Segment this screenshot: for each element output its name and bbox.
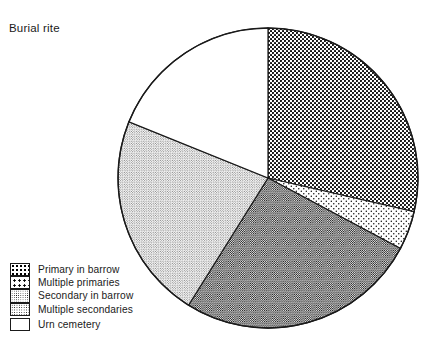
legend-label: Primary in barrow [38, 263, 120, 276]
legend-label: Secondary in barrow [38, 289, 133, 302]
legend-swatch [10, 303, 30, 316]
legend-label: Multiple primaries [38, 276, 120, 289]
legend-swatch [10, 318, 30, 331]
legend-item[interactable]: Multiple primaries [10, 276, 190, 289]
legend-label: Multiple secondaries [38, 303, 133, 316]
legend: Primary in barrowMultiple primariesSecon… [10, 263, 190, 331]
legend-item[interactable]: Urn cemetery [10, 318, 190, 331]
legend-swatch [10, 263, 30, 276]
legend-item[interactable]: Secondary in barrow [10, 289, 190, 302]
legend-item[interactable]: Multiple secondaries [10, 303, 190, 316]
legend-swatch [10, 276, 30, 289]
legend-swatch [10, 289, 30, 302]
legend-label: Urn cemetery [38, 318, 100, 331]
legend-item[interactable]: Primary in barrow [10, 263, 190, 276]
